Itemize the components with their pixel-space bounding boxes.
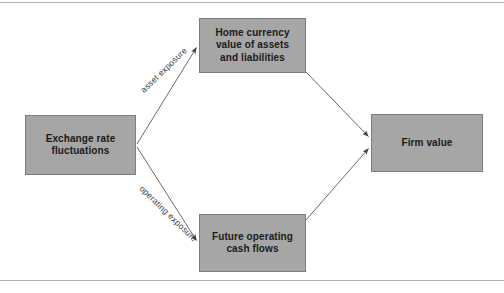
node-future-operating-cash-flows: Future operating cash flows (199, 214, 306, 272)
node-exchange-rate-line1: Exchange rate (46, 133, 116, 146)
node-future-cash-line1: Future operating (212, 231, 293, 244)
node-home-currency-line2: value of assets (215, 39, 289, 52)
edge-home-currency-to-firm-value (306, 72, 369, 137)
node-exchange-rate-line2: fluctuations (46, 145, 116, 158)
node-exchange-rate-fluctuations: Exchange rate fluctuations (25, 115, 136, 175)
node-firm-value: Firm value (371, 114, 483, 172)
diagram-canvas: Exchange rate fluctuations Home currency… (0, 0, 504, 293)
node-future-cash-line2: cash flows (212, 243, 293, 256)
edge-future-cash-to-firm-value (306, 149, 369, 221)
node-home-currency-line1: Home currency (215, 27, 289, 40)
node-firm-value-line1: Firm value (401, 137, 452, 150)
node-home-currency-value: Home currency value of assets and liabil… (199, 18, 306, 73)
node-home-currency-line3: and liabilities (215, 52, 289, 65)
